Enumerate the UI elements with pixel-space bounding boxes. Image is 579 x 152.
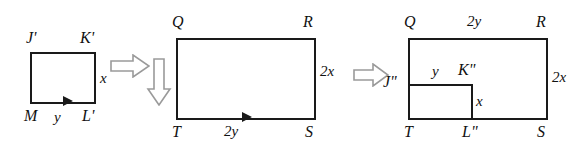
label-side-2x-figure2: 2x <box>320 64 334 79</box>
small-rectangle-bottom-arrowhead <box>63 96 73 106</box>
overlay-inner-rectangle-top-edge <box>408 84 472 86</box>
label-m: M <box>24 108 37 124</box>
label-k-double-prime: K" <box>458 62 475 78</box>
label-t-figure2: T <box>172 124 181 140</box>
label-r-figure2: R <box>303 14 313 30</box>
enlarged-rectangle-shape <box>176 38 316 120</box>
label-r-figure3: R <box>536 14 546 30</box>
label-side-2y-figure2: 2y <box>224 124 238 139</box>
diagram-canvas: J' K' M L' x y Q R T S 2x 2y Q R T S 2y … <box>0 0 579 152</box>
label-side-x-figure3: x <box>476 94 483 109</box>
label-q-figure2: Q <box>172 14 184 30</box>
label-s-figure3: S <box>537 124 545 140</box>
label-side-y-figure3: y <box>432 64 439 79</box>
enlarged-rectangle-bottom-arrowhead <box>242 112 252 122</box>
overlay-inner-rectangle-right-edge <box>471 84 473 120</box>
label-j-prime: J' <box>26 30 37 46</box>
label-l-double-prime: L" <box>462 124 478 140</box>
label-side-y-figure1: y <box>54 110 61 125</box>
label-side-2y-figure3: 2y <box>467 14 481 29</box>
label-l-prime: L' <box>82 108 94 124</box>
label-j-double-prime: J" <box>383 74 397 90</box>
label-side-x-figure1: x <box>100 71 107 86</box>
label-side-2x-figure3: 2x <box>552 70 566 85</box>
label-q-figure3: Q <box>404 14 416 30</box>
label-k-prime: K' <box>80 30 94 46</box>
arrow-down-icon-1 <box>146 58 172 106</box>
arrow-right-icon-1 <box>110 54 150 78</box>
label-t-figure3: T <box>404 124 413 140</box>
label-s-figure2: S <box>305 124 313 140</box>
